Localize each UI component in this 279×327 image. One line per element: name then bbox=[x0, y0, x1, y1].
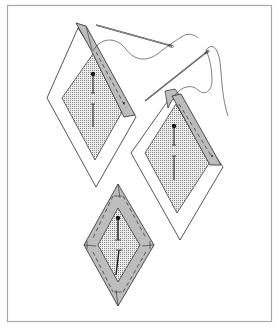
paper-piecing-illustration bbox=[0, 0, 279, 327]
